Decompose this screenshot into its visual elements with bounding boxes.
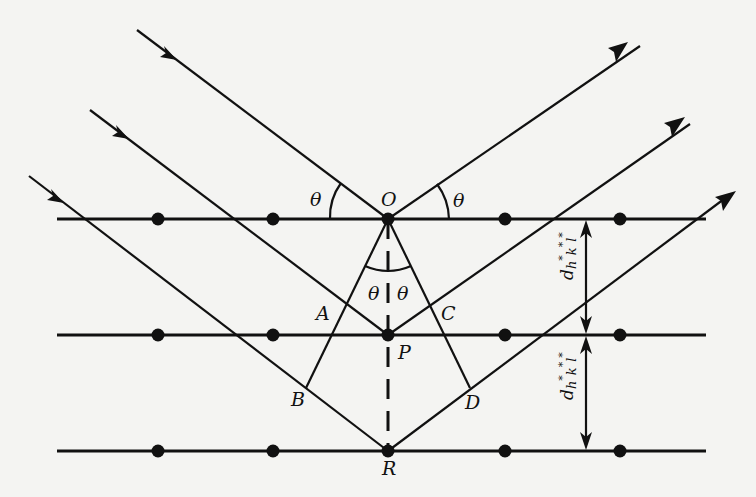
reflected-ray-2	[388, 124, 690, 335]
spacing-label-lower: dh*k*l*	[556, 352, 579, 400]
angle-arc-left	[330, 183, 341, 219]
svg-text:dh*k*l*: dh*k*l*	[556, 352, 579, 400]
spacing-label-upper: dh*k*l*	[556, 232, 579, 280]
incident-rays	[29, 30, 388, 451]
reflected-arrowheads	[608, 42, 736, 211]
arrow-out-icon	[715, 191, 736, 211]
arrow-out-icon	[608, 42, 628, 62]
incident-arrowheads	[47, 46, 177, 203]
arrow-in-icon	[112, 125, 129, 139]
angle-arc-right	[437, 184, 449, 219]
lattice-dot	[614, 445, 627, 458]
lattice-dot	[499, 329, 512, 342]
svg-text:dh*k*l*: dh*k*l*	[556, 232, 579, 280]
theta-reflected-label: θ	[453, 189, 465, 211]
label-B: B	[290, 388, 305, 410]
lattice-dot	[614, 329, 627, 342]
label-O: O	[381, 188, 397, 210]
lattice-dot	[267, 329, 280, 342]
label-C: C	[441, 302, 456, 324]
lattice-dot	[267, 213, 280, 226]
reflected-ray-1	[388, 46, 640, 219]
theta-incident-label: θ	[310, 188, 322, 210]
lattice-dot	[152, 445, 165, 458]
label-P: P	[397, 341, 412, 363]
theta-inner-right-label: θ	[397, 282, 409, 304]
lattice-dot	[152, 213, 165, 226]
label-D: D	[464, 391, 480, 413]
bragg-diagram: dh*k*l* dh*k*l* O P R A B C D θ θ θ θ	[0, 0, 756, 497]
label-A: A	[314, 302, 330, 324]
lattice-dot	[499, 213, 512, 226]
incident-ray-3	[29, 176, 388, 451]
lattice-dot	[267, 445, 280, 458]
lattice-dot	[152, 329, 165, 342]
label-R: R	[381, 457, 396, 479]
lattice-dot	[614, 213, 627, 226]
lattice-dot	[499, 445, 512, 458]
theta-inner-left-label: θ	[368, 282, 380, 304]
incident-ray-2	[90, 110, 388, 335]
